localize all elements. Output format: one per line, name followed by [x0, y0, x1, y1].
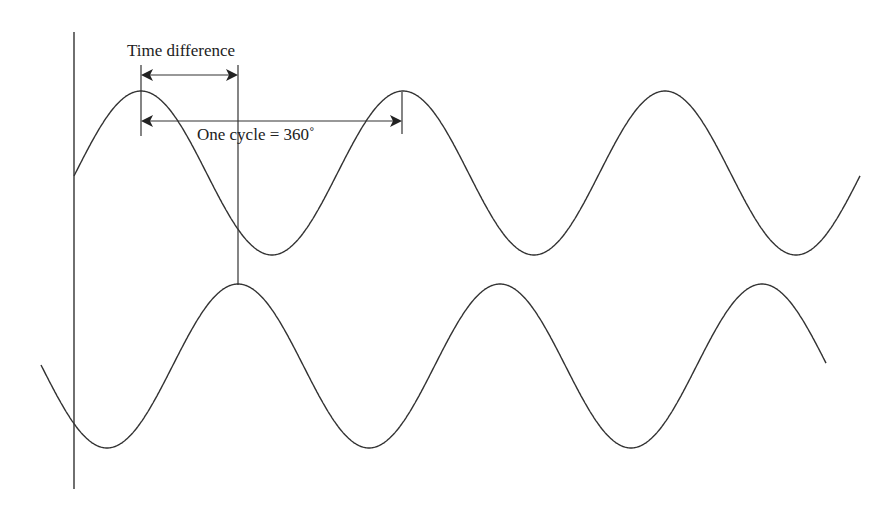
time-difference-arrow: [141, 69, 238, 81]
reference-wave: [74, 91, 860, 255]
lagging-wave: [41, 284, 826, 448]
phase-diagram: Time difference One cycle = 360˚: [0, 0, 894, 515]
time-difference-label: Time difference: [127, 41, 235, 60]
one-cycle-label: One cycle = 360˚: [197, 125, 315, 144]
